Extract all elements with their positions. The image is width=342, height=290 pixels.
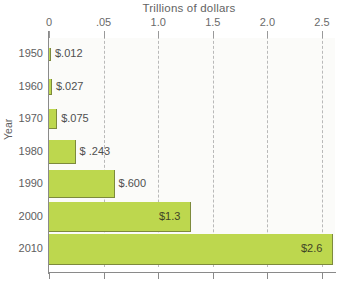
y-axis-category-label: 1950	[0, 47, 43, 59]
x-tick-mark	[213, 273, 214, 279]
bar-value-label: $ .243	[80, 145, 111, 157]
gridline	[213, 31, 214, 267]
bar	[49, 170, 115, 198]
gridline	[267, 31, 268, 267]
gridline	[322, 31, 323, 267]
x-tick-mark-top	[104, 31, 105, 38]
x-tick-label: 1.5	[205, 16, 220, 28]
x-tick-label: .05	[96, 16, 111, 28]
x-axis-line	[48, 272, 336, 273]
bar	[49, 140, 76, 164]
y-axis-category-label: 1970	[0, 112, 43, 124]
x-tick-mark	[158, 273, 159, 279]
x-tick-mark-top	[267, 31, 268, 38]
y-axis-category-label: 2010	[0, 242, 43, 254]
bar-value-label: $.012	[55, 47, 83, 59]
y-axis-category-label: 1980	[0, 145, 43, 157]
x-tick-label: 1.0	[151, 16, 166, 28]
bar-value-label: $2.6	[301, 242, 322, 254]
x-tick-label: 0	[46, 16, 52, 28]
bar	[49, 79, 52, 95]
x-tick-mark-top	[49, 31, 50, 38]
bar	[49, 234, 333, 265]
bar-chart: Trillions of dollars Year 0.051.01.52.02…	[0, 0, 342, 290]
x-tick-mark-top	[322, 31, 323, 38]
x-tick-label: 2.0	[260, 16, 275, 28]
x-tick-mark-top	[213, 31, 214, 38]
x-tick-mark	[104, 273, 105, 279]
y-axis-category-label: 1990	[0, 177, 43, 189]
bar-value-label: $.600	[119, 177, 147, 189]
x-tick-mark	[49, 273, 50, 279]
bar-value-label: $.075	[61, 112, 89, 124]
x-tick-mark	[322, 273, 323, 279]
x-tick-mark	[267, 273, 268, 279]
chart-title: Trillions of dollars	[0, 2, 342, 14]
bar	[49, 109, 57, 129]
x-tick-label: 2.5	[314, 16, 329, 28]
bar-value-label: $.027	[56, 80, 84, 92]
bar	[49, 48, 51, 61]
x-tick-mark-top	[158, 31, 159, 38]
y-axis-category-label: 2000	[0, 210, 43, 222]
bar-value-label: $1.3	[159, 210, 180, 222]
y-axis-category-label: 1960	[0, 80, 43, 92]
